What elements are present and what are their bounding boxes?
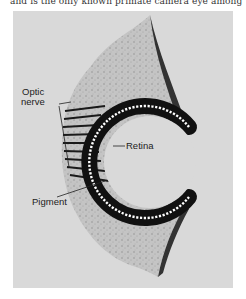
- label-optic-nerve-line2: nerve: [21, 97, 45, 107]
- body-text-fragment: and is the only known primate camera eye…: [10, 0, 246, 6]
- label-pigment: Pigment: [32, 197, 67, 207]
- eye-diagram-figure: Optic nerve Retina Pigment: [13, 11, 233, 288]
- label-retina: Retina: [126, 141, 153, 151]
- eye-illustration: [13, 11, 233, 288]
- eye-cavity: [104, 116, 196, 208]
